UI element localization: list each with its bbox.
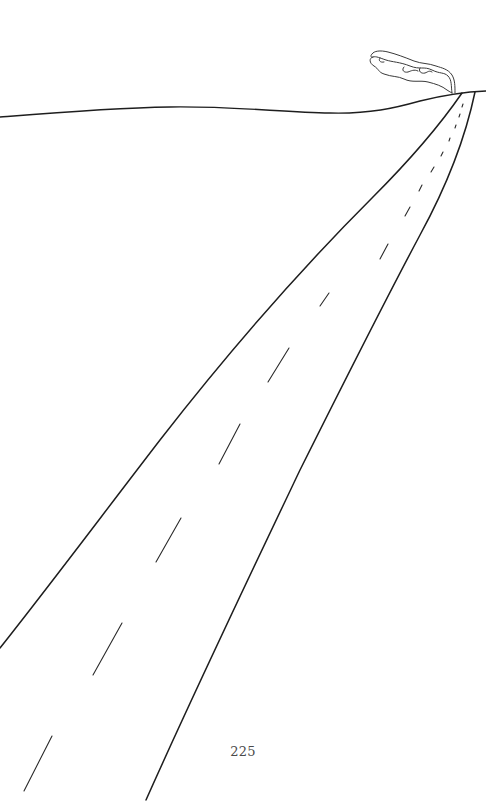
road-center-dashes [24, 104, 463, 791]
smoke-plume [370, 51, 455, 93]
road-illustration [0, 0, 486, 805]
page-number: 225 [0, 744, 486, 759]
road-right-edge [146, 92, 475, 800]
road-left-edge [0, 93, 462, 648]
horizon-line [0, 91, 486, 117]
book-page: 225 [0, 0, 486, 805]
